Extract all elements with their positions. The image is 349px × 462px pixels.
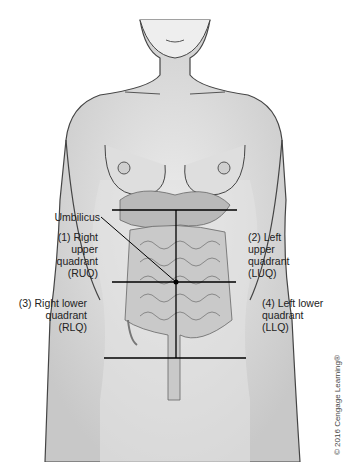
label-rlq: (3) Right lower quadrant (RLQ)	[5, 297, 87, 333]
umbilicus-dot	[174, 280, 179, 285]
label-llq: (4) Left lower quadrant (LLQ)	[262, 297, 349, 333]
label-luq: (2) Left upper quadrant (LUQ)	[248, 231, 328, 279]
copyright-notice: © 2016 Cengage Learning®	[333, 355, 342, 455]
label-ruq: (1) Right upper quadrant (RUQ)	[30, 231, 98, 279]
label-umbilicus: Umbilicus	[40, 211, 100, 223]
